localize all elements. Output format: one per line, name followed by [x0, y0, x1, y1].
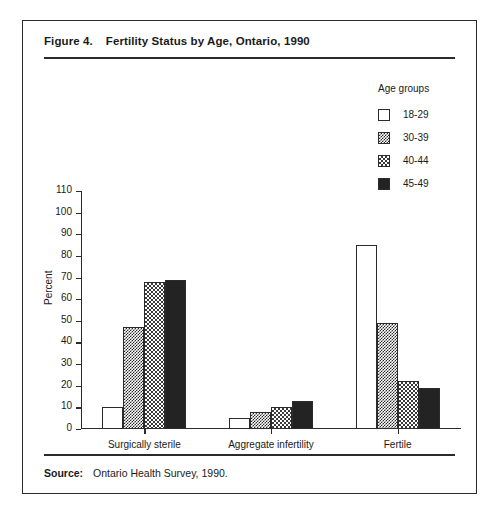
- bar-surgically-sterile-30-39: [123, 327, 144, 429]
- y-tick-label-90: 90: [61, 227, 72, 238]
- y-tick-100: 100: [76, 213, 81, 214]
- y-tick-label-0: 0: [66, 422, 72, 433]
- bar-aggregate-infertility-30-39: [250, 412, 271, 429]
- bar-fertile-18-29: [356, 245, 377, 429]
- y-tick-50: 50: [76, 321, 81, 322]
- y-tick-60: 60: [76, 299, 81, 300]
- x-tick-2: [398, 429, 399, 434]
- y-tick-label-30: 30: [61, 357, 72, 368]
- y-tick-label-10: 10: [61, 400, 72, 411]
- y-tick-40: 40: [76, 342, 81, 343]
- chart-plot: Percent 0102030405060708090100110Surgica…: [23, 21, 476, 493]
- y-tick-110: 110: [76, 191, 81, 192]
- bar-fertile-40-44: [398, 381, 419, 429]
- y-tick-label-80: 80: [61, 249, 72, 260]
- y-tick-label-60: 60: [61, 292, 72, 303]
- bar-aggregate-infertility-40-44: [271, 407, 292, 429]
- source-divider: [44, 454, 455, 456]
- bar-fertile-45-49: [419, 388, 440, 429]
- y-tick-10: 10: [76, 407, 81, 408]
- source-note: Source:Ontario Health Survey, 1990.: [44, 467, 228, 479]
- x-axis-label-2: Fertile: [384, 439, 412, 450]
- y-tick-70: 70: [76, 278, 81, 279]
- x-axis-label-1: Aggregate infertility: [228, 439, 314, 450]
- y-tick-0: 0: [76, 429, 81, 430]
- y-tick-label-20: 20: [61, 379, 72, 390]
- bar-surgically-sterile-18-29: [102, 407, 123, 429]
- y-tick-label-40: 40: [61, 335, 72, 346]
- source-label: Source:: [44, 467, 83, 479]
- y-axis-title: Percent: [43, 271, 54, 305]
- y-tick-label-110: 110: [56, 184, 72, 195]
- x-tick-0: [144, 429, 145, 434]
- y-tick-20: 20: [76, 386, 81, 387]
- bar-surgically-sterile-45-49: [165, 280, 186, 429]
- y-tick-label-100: 100: [55, 206, 72, 217]
- y-tick-90: 90: [76, 234, 81, 235]
- bar-surgically-sterile-40-44: [144, 282, 165, 429]
- x-axis-label-0: Surgically sterile: [108, 439, 181, 450]
- x-tick-1: [271, 429, 272, 434]
- bar-aggregate-infertility-45-49: [292, 401, 313, 429]
- bar-fertile-30-39: [377, 323, 398, 429]
- figure-frame: Figure 4.Fertility Status by Age, Ontari…: [22, 20, 477, 494]
- y-axis-line: [81, 191, 82, 429]
- y-tick-30: 30: [76, 364, 81, 365]
- y-tick-80: 80: [76, 256, 81, 257]
- source-text: Ontario Health Survey, 1990.: [93, 467, 228, 479]
- plot-area: 0102030405060708090100110Surgically ster…: [81, 191, 461, 429]
- y-tick-label-70: 70: [61, 271, 72, 282]
- bar-aggregate-infertility-18-29: [229, 418, 250, 429]
- y-tick-label-50: 50: [61, 314, 72, 325]
